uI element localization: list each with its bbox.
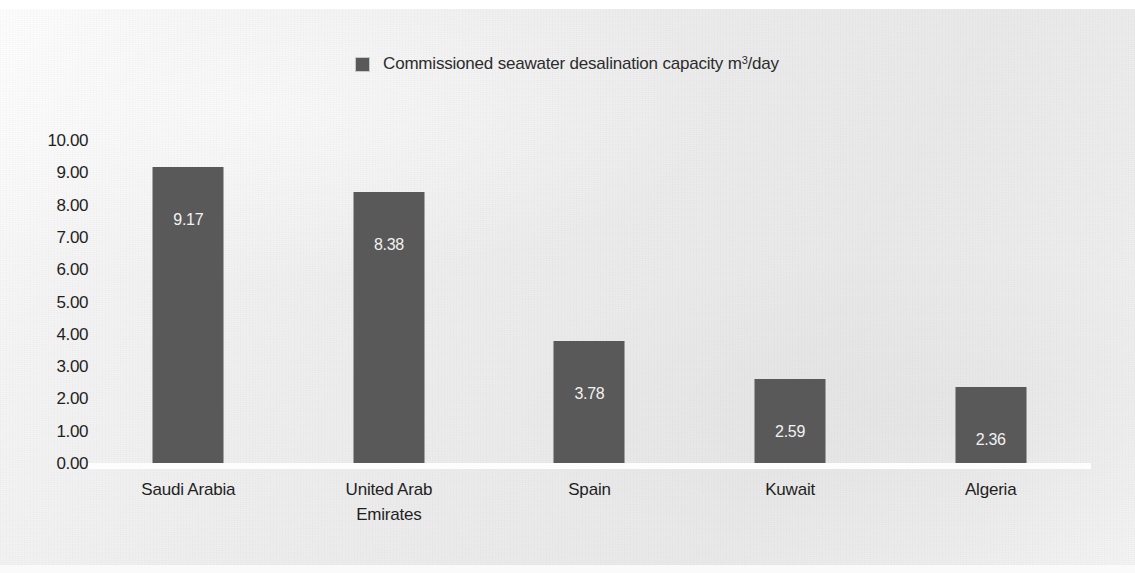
bar-slot: 2.59 xyxy=(690,128,891,463)
chart-figure: Commissioned seawater desalination capac… xyxy=(0,0,1135,573)
x-axis-category-labels: Saudi ArabiaUnited ArabEmiratesSpainKuwa… xyxy=(88,477,1091,547)
y-axis-tick-label: 5.00 xyxy=(14,294,88,311)
x-axis-category-label: Kuwait xyxy=(690,477,891,502)
x-axis-line xyxy=(88,463,1091,469)
plot-area: 10.009.008.007.006.005.004.003.002.001.0… xyxy=(0,0,1135,573)
bar[interactable]: 2.36 xyxy=(955,387,1026,463)
y-axis-tick-label: 10.00 xyxy=(14,132,88,149)
bar[interactable]: 2.59 xyxy=(755,379,826,463)
bar-slot: 3.78 xyxy=(489,128,690,463)
bar-slot: 9.17 xyxy=(88,128,289,463)
bar-value-label: 2.36 xyxy=(976,431,1006,449)
y-axis-tick-label: 3.00 xyxy=(14,358,88,375)
category-label-line-1: United Arab xyxy=(289,477,490,502)
y-axis-tick-label: 7.00 xyxy=(14,229,88,246)
category-label-line-1: Algeria xyxy=(890,477,1091,502)
category-label-line-1: Kuwait xyxy=(690,477,891,502)
bar-value-label: 3.78 xyxy=(575,385,605,403)
y-axis: 10.009.008.007.006.005.004.003.002.001.0… xyxy=(14,128,88,476)
bar-value-label: 2.59 xyxy=(775,423,805,441)
bar[interactable]: 3.78 xyxy=(554,341,625,463)
bar[interactable]: 9.17 xyxy=(153,167,224,463)
category-label-line-2: Emirates xyxy=(289,502,490,527)
y-axis-tick-label: 6.00 xyxy=(14,261,88,278)
x-axis-category-label: Spain xyxy=(489,477,690,502)
bar-slot: 2.36 xyxy=(890,128,1091,463)
x-axis-category-label: Algeria xyxy=(890,477,1091,502)
y-axis-tick-label: 0.00 xyxy=(14,455,88,472)
x-axis-category-label: Saudi Arabia xyxy=(88,477,289,502)
y-axis-tick-label: 2.00 xyxy=(14,390,88,407)
bar-value-label: 8.38 xyxy=(374,236,404,254)
x-axis-category-label: United ArabEmirates xyxy=(289,477,490,527)
category-label-line-1: Spain xyxy=(489,477,690,502)
bar-value-label: 9.17 xyxy=(173,211,203,229)
bar[interactable]: 8.38 xyxy=(353,192,424,463)
bar-group: 9.178.383.782.592.36 xyxy=(88,128,1091,463)
y-axis-tick-label: 4.00 xyxy=(14,326,88,343)
bar-slot: 8.38 xyxy=(289,128,490,463)
y-axis-tick-label: 1.00 xyxy=(14,423,88,440)
category-label-line-1: Saudi Arabia xyxy=(88,477,289,502)
y-axis-tick-label: 9.00 xyxy=(14,164,88,181)
y-axis-tick-label: 8.00 xyxy=(14,197,88,214)
